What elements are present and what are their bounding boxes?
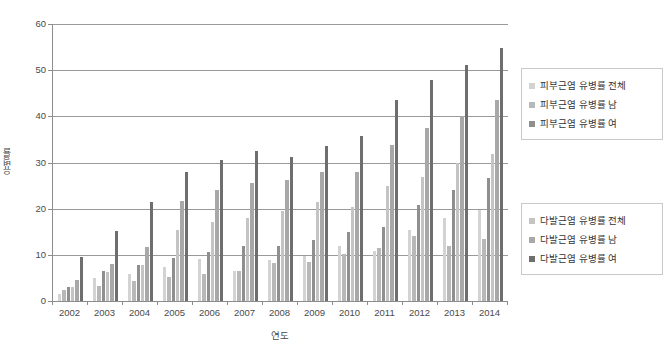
bar bbox=[233, 271, 236, 301]
bar bbox=[377, 248, 380, 301]
bar bbox=[281, 211, 284, 301]
bar bbox=[412, 236, 415, 301]
bar bbox=[500, 48, 503, 301]
x-tick-label: 2010 bbox=[334, 307, 366, 319]
bar bbox=[110, 264, 113, 301]
bar-group bbox=[263, 24, 298, 301]
bar bbox=[268, 260, 271, 301]
bar-group bbox=[193, 24, 228, 301]
bar bbox=[67, 287, 70, 301]
x-tick-mark bbox=[367, 301, 368, 305]
legend-item-label: 다발근염 유병률 남 bbox=[540, 234, 617, 245]
legend-swatch-derm-female bbox=[529, 121, 535, 127]
bar bbox=[382, 227, 385, 301]
x-axis-tick-labels: 2002200320042005200620072008200920102011… bbox=[52, 307, 508, 321]
bar bbox=[460, 116, 463, 301]
bar-group bbox=[298, 24, 333, 301]
bar bbox=[290, 157, 293, 301]
legend-item-label: 다발근염 유병률 전체 bbox=[540, 215, 626, 226]
bar bbox=[137, 265, 140, 301]
bar bbox=[421, 177, 424, 301]
bar bbox=[207, 252, 210, 301]
x-tick-mark bbox=[437, 301, 438, 305]
bar-group bbox=[403, 24, 438, 301]
legend-swatch-derm-total bbox=[529, 83, 535, 89]
bar-group bbox=[473, 24, 508, 301]
bar bbox=[351, 207, 354, 301]
x-tick-label: 2012 bbox=[404, 307, 436, 319]
bar bbox=[285, 180, 288, 301]
bar bbox=[360, 136, 363, 301]
x-tick-mark bbox=[157, 301, 158, 305]
bar bbox=[316, 202, 319, 301]
bar bbox=[478, 210, 481, 301]
y-tick-label: 10 bbox=[24, 250, 46, 260]
bar bbox=[242, 246, 245, 301]
bar bbox=[128, 274, 131, 301]
bar bbox=[246, 218, 249, 301]
y-axis-title: 유병률 bbox=[2, 148, 16, 175]
bar bbox=[132, 281, 135, 301]
plot-area bbox=[52, 24, 508, 301]
x-tick-mark bbox=[332, 301, 333, 305]
bar bbox=[452, 190, 455, 301]
bar bbox=[338, 246, 341, 301]
legend-swatch-poly-female bbox=[529, 256, 535, 262]
legend-item[interactable]: 다발근염 유병률 남 bbox=[529, 230, 654, 249]
x-tick-label: 2007 bbox=[229, 307, 261, 319]
bar bbox=[141, 265, 144, 301]
bar bbox=[211, 222, 214, 301]
x-tick-label: 2011 bbox=[369, 307, 401, 319]
x-tick-mark bbox=[87, 301, 88, 305]
bar bbox=[176, 230, 179, 301]
x-tick-label: 2005 bbox=[159, 307, 191, 319]
bar-group bbox=[123, 24, 158, 301]
bar bbox=[62, 290, 65, 301]
y-tick-label: 20 bbox=[24, 204, 46, 214]
x-tick-label: 2006 bbox=[194, 307, 226, 319]
bar-group bbox=[368, 24, 403, 301]
legend-item[interactable]: 다발근염 유병률 여 bbox=[529, 249, 654, 268]
x-tick-label: 2002 bbox=[54, 307, 86, 319]
x-tick-label: 2013 bbox=[439, 307, 471, 319]
legend-item[interactable]: 피부근염 유병률 전체 bbox=[529, 76, 654, 95]
legend-item[interactable]: 피부근염 유병률 남 bbox=[529, 95, 654, 114]
bar bbox=[303, 256, 306, 301]
bar bbox=[390, 145, 393, 301]
bar bbox=[185, 172, 188, 301]
bar bbox=[145, 247, 148, 301]
x-tick-mark bbox=[472, 301, 473, 305]
bar bbox=[456, 163, 459, 302]
y-tick-label: 40 bbox=[24, 111, 46, 121]
bar bbox=[215, 190, 218, 301]
bar bbox=[167, 277, 170, 301]
bar bbox=[312, 240, 315, 301]
legend-item[interactable]: 피부근염 유병률 여 bbox=[529, 114, 654, 133]
legend-dermatomyositis: 피부근염 유병률 전체피부근염 유병률 남피부근염 유병률 여 bbox=[521, 68, 663, 140]
bar-group bbox=[53, 24, 88, 301]
bar bbox=[106, 272, 109, 301]
bar bbox=[495, 100, 498, 301]
bar bbox=[163, 267, 166, 301]
x-axis-line bbox=[52, 301, 508, 302]
bar bbox=[80, 257, 83, 301]
bar bbox=[102, 271, 105, 301]
x-tick-mark bbox=[227, 301, 228, 305]
x-tick-mark bbox=[52, 301, 53, 305]
bar bbox=[307, 262, 310, 301]
y-tick-label: 0 bbox=[24, 296, 46, 306]
bar bbox=[425, 128, 428, 301]
bar bbox=[386, 186, 389, 301]
bar bbox=[75, 280, 78, 301]
bar bbox=[250, 183, 253, 301]
bar bbox=[97, 286, 100, 301]
bar bbox=[198, 259, 201, 301]
y-tick-label: 30 bbox=[24, 158, 46, 168]
legend-item[interactable]: 다발근염 유병률 전체 bbox=[529, 211, 654, 230]
y-axis-tick-labels: 0102030405060 bbox=[24, 18, 46, 308]
bar bbox=[325, 146, 328, 301]
bar bbox=[465, 65, 468, 301]
x-axis-title: 연도 bbox=[52, 328, 508, 342]
x-tick-mark bbox=[192, 301, 193, 305]
bar bbox=[487, 178, 490, 301]
